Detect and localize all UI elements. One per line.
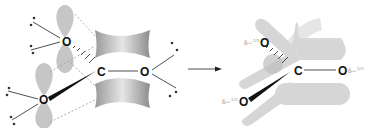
hashed-bond	[73, 46, 95, 63]
svg-text:δ−: δ−	[348, 67, 357, 74]
atom-c: C	[97, 65, 106, 79]
atom-o-top: O	[260, 36, 269, 50]
reaction-arrow	[188, 67, 222, 72]
wedge-bond	[48, 71, 96, 101]
atom-c: C	[294, 64, 303, 78]
charge-label-right: δ− 2/3	[348, 66, 364, 74]
atom-o-right: O	[338, 64, 347, 78]
carbonate-diagram: O C O O O C O O	[0, 0, 366, 128]
atom-o-bottom: O	[239, 95, 248, 109]
atom-o-bottom: O	[39, 93, 48, 107]
dashed-overlap-lines	[50, 14, 95, 122]
atom-o-right: O	[140, 65, 149, 79]
left-panel: O C O O	[6, 5, 179, 128]
svg-text:2/3: 2/3	[253, 38, 260, 43]
right-panel: O C O O δ− 2/3 δ− 2/3 δ− 2/3	[222, 18, 364, 126]
svg-text:δ−: δ−	[222, 98, 231, 105]
atom-o-top: O	[62, 35, 71, 49]
svg-text:2/3: 2/3	[357, 66, 364, 71]
p-orbital-lobes	[35, 5, 73, 128]
lone-pair-lines	[8, 22, 176, 120]
svg-text:δ−: δ−	[244, 39, 253, 46]
charge-label-top: δ− 2/3	[244, 38, 260, 46]
svg-text:2/3: 2/3	[231, 97, 238, 102]
charge-label-bottom: δ− 2/3	[222, 97, 238, 105]
